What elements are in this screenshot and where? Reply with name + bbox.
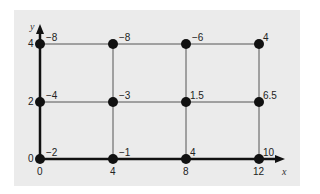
point-label: −3 [119,91,130,101]
point-label: 4 [190,148,196,158]
y-tick-label: 0 [28,154,34,164]
y-tick-label: 2 [28,97,34,107]
point-label: −2 [46,148,57,158]
point-label: −4 [46,91,57,101]
point-label: −8 [46,33,57,43]
x-tick-label: 4 [110,167,116,177]
point-label: −8 [119,33,130,43]
y-axis-label: y [30,22,34,32]
grid-lines [40,44,259,159]
x-tick-label: 12 [253,167,264,177]
x-tick-label: 8 [183,167,189,177]
point-label: −6 [192,33,203,43]
axes [40,30,278,159]
point-label: 6.5 [263,91,277,101]
x-tick-label: 0 [37,167,43,177]
x-axis-arrow-icon [275,155,285,163]
y-tick-label: 4 [28,39,34,49]
x-axis-label: x [282,167,286,177]
point-label: 1.5 [190,91,204,101]
point-label: 10 [263,148,274,158]
point-label: 4 [263,33,269,43]
point-label: −1 [119,148,130,158]
y-axis-arrow-icon [36,24,44,34]
